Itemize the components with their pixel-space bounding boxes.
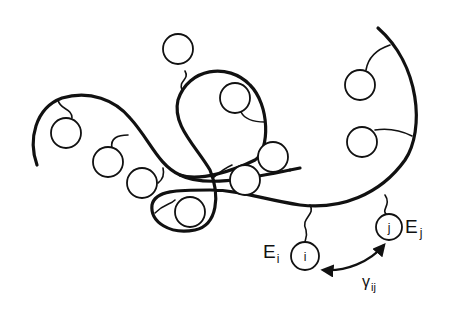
interaction-arrow [323, 245, 384, 270]
polymer-loop [290, 168, 300, 170]
bead-i-label: i [304, 250, 307, 264]
bead-loop-inner [220, 83, 265, 122]
bead-right-1 [345, 45, 390, 100]
bead-j-label: j [387, 221, 391, 235]
bead-lower-loop [155, 197, 205, 227]
interaction-label: γij [362, 273, 376, 293]
bead-left-1 [51, 100, 81, 148]
energy-j-label: Ej [405, 216, 422, 240]
bead-left-3 [127, 168, 164, 198]
bead-left-2 [93, 135, 128, 177]
bead-i: i [291, 205, 319, 270]
energy-i-label: Ei [263, 241, 279, 266]
bead-right-2 [347, 127, 412, 157]
bead-j: j [376, 195, 402, 240]
polymer-diagram: i j Ei Ej γij [0, 0, 454, 313]
bead-mid-2 [258, 142, 288, 172]
